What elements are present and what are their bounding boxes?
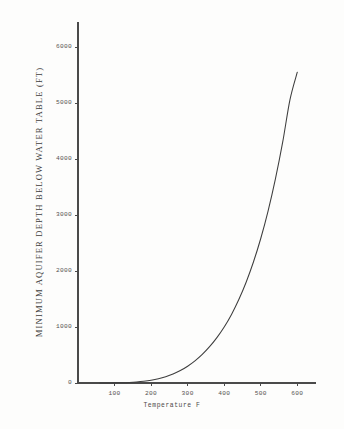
y-axis-title: MINIMUM AQUIFER DEPTH BELOW WATER TABLE … [34,22,44,382]
x-tick-label: 100 [100,390,130,397]
x-tick-label: 200 [136,390,166,397]
axes-group [78,22,316,383]
x-tick-label: 600 [282,390,312,397]
x-tick-label: 500 [246,390,276,397]
chart-figure: 0100020003000400050006000 10020030040050… [0,0,344,429]
data-series-group [100,72,297,383]
x-tick-label: 400 [209,390,239,397]
x-tick-label: 300 [173,390,203,397]
data-curve [100,72,297,383]
x-axis-title: Temperature F [0,402,344,409]
